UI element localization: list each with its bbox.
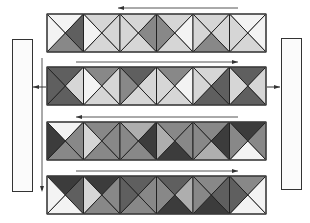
strip-3-direction-arrow bbox=[76, 115, 238, 119]
left-vertical-connector bbox=[40, 58, 44, 192]
side-boxes bbox=[13, 39, 302, 192]
strip-4 bbox=[47, 176, 266, 214]
left-box-connector bbox=[33, 85, 46, 89]
arrow-right-icon bbox=[232, 60, 238, 64]
pattern-square bbox=[157, 176, 194, 214]
pattern-square bbox=[230, 176, 267, 214]
pattern-square bbox=[157, 122, 194, 160]
strip-4-direction-arrow bbox=[76, 169, 238, 173]
pattern-square bbox=[84, 122, 121, 160]
pattern-square bbox=[47, 14, 84, 52]
arrow-right-icon bbox=[274, 85, 280, 89]
arrow-left-icon bbox=[33, 85, 39, 89]
pattern-square bbox=[193, 14, 230, 52]
pattern-square bbox=[157, 67, 194, 105]
pattern-square bbox=[84, 67, 121, 105]
pattern-square bbox=[120, 67, 157, 105]
right-box-connector bbox=[267, 85, 280, 89]
strip-2 bbox=[47, 67, 266, 105]
pattern-square bbox=[193, 176, 230, 214]
pattern-square bbox=[120, 122, 157, 160]
pattern-square bbox=[84, 176, 121, 214]
left-box bbox=[13, 40, 33, 192]
pattern-square bbox=[120, 176, 157, 214]
pattern-square bbox=[193, 67, 230, 105]
arrow-left-icon bbox=[76, 115, 82, 119]
arrow-right-icon bbox=[232, 169, 238, 173]
strip-1 bbox=[47, 14, 266, 52]
strip-3 bbox=[47, 122, 266, 160]
pattern-square bbox=[193, 122, 230, 160]
strip-2-direction-arrow bbox=[76, 60, 238, 64]
pattern-square bbox=[84, 14, 121, 52]
frieze-pattern-diagram bbox=[0, 0, 310, 223]
pattern-square bbox=[47, 67, 84, 105]
pattern-square bbox=[120, 14, 157, 52]
pattern-square bbox=[230, 122, 267, 160]
pattern-square bbox=[47, 122, 84, 160]
pattern-square bbox=[230, 14, 267, 52]
pattern-strips bbox=[47, 14, 266, 214]
arrow-down-icon bbox=[40, 186, 44, 192]
right-box bbox=[282, 39, 302, 190]
strip-1-direction-arrow bbox=[118, 6, 238, 10]
arrow-left-icon bbox=[118, 6, 124, 10]
pattern-square bbox=[230, 67, 267, 105]
pattern-square bbox=[157, 14, 194, 52]
pattern-square bbox=[47, 176, 84, 214]
